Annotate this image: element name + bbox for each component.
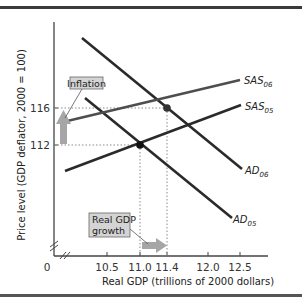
- inflation-leader-line: [65, 89, 82, 118]
- growth-label-line2: growth: [92, 225, 125, 236]
- equilibrium-point-2005: [136, 141, 144, 149]
- y-tick-label-116: 116: [30, 102, 50, 114]
- ad06-curve: [82, 38, 242, 169]
- y-tick-label-112: 112: [30, 139, 50, 151]
- x-tick-label-11.0: 11.0: [128, 261, 151, 273]
- equilibrium-point-2006: [163, 104, 171, 112]
- inflation-label: Inflation: [67, 78, 106, 89]
- x-axis-title: Real GDP (trillions of 2000 dollars): [102, 276, 274, 287]
- sas06-label: SAS06: [244, 75, 273, 89]
- ad-as-chart: 116 112 0 10.5 11.0 11.4 12.0 12.5 Price…: [0, 0, 302, 297]
- sas05-label: SAS05: [245, 101, 274, 115]
- x-tick-label-10.5: 10.5: [95, 261, 118, 273]
- growth-label-line1: Real GDP: [92, 214, 136, 225]
- inflation-arrow-icon: [56, 110, 71, 144]
- x-tick-label-12.5: 12.5: [228, 261, 251, 273]
- growth-leader-line: [130, 229, 148, 244]
- y-axis-title: Price level (GDP deflator, 2000 = 100): [16, 49, 27, 241]
- ad06-label: AD06: [244, 165, 269, 179]
- growth-arrow-icon: [142, 238, 167, 253]
- x-tick-label-12.0: 12.0: [196, 261, 219, 273]
- origin-label: 0: [44, 261, 51, 273]
- x-tick-label-11.4: 11.4: [155, 261, 179, 273]
- ad05-label: AD05: [232, 214, 257, 228]
